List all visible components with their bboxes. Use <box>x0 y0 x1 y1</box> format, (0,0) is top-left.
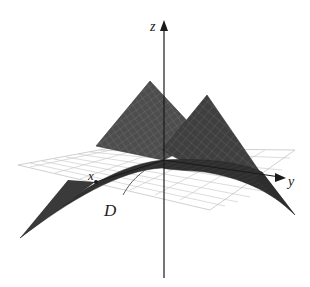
y-axis-label: y <box>286 174 295 189</box>
x-axis-point-icon <box>94 180 98 184</box>
z-axis-label: z <box>149 19 156 34</box>
diagram-canvas: z y x D <box>0 0 310 287</box>
x-axis-label: x <box>87 168 94 183</box>
z-axis-arrowhead-icon <box>160 20 168 31</box>
region-d-label: D <box>103 201 117 220</box>
surface-wing-left <box>20 180 95 238</box>
y-axis-arrowhead-icon <box>275 173 286 182</box>
surface-diagram: z y x D <box>0 0 310 287</box>
